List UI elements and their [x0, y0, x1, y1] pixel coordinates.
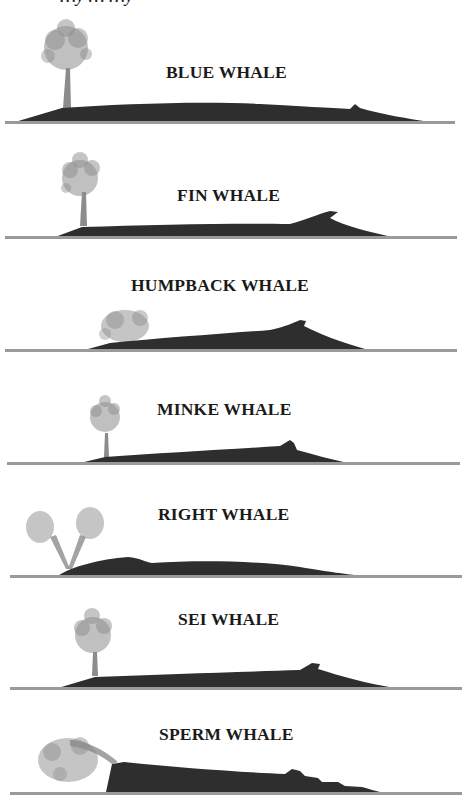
- waterline: [10, 792, 462, 795]
- waterline: [5, 236, 457, 239]
- whale-body: [106, 762, 380, 792]
- whale-label-sei: SEI WHALE: [178, 609, 279, 630]
- waterline: [7, 462, 460, 465]
- sperm-whale-illustration: [0, 700, 471, 804]
- humpback-whale-illustration: [0, 250, 471, 365]
- waterline: [5, 121, 455, 124]
- whale-label-humpback: HUMPBACK WHALE: [131, 275, 309, 296]
- spray-icon: [99, 310, 149, 342]
- waterline: [5, 349, 457, 352]
- spray-icon: [41, 19, 92, 108]
- whale-panel-humpback: HUMPBACK WHALE: [0, 250, 471, 365]
- whale-panel-right: RIGHT WHALE: [0, 475, 471, 590]
- whale-panel-sei: SEI WHALE: [0, 590, 471, 700]
- waterline: [10, 575, 462, 578]
- whale-body: [55, 211, 392, 237]
- whale-panel-minke: MINKE WHALE: [0, 365, 471, 475]
- spray-icon: [90, 395, 120, 457]
- whale-body: [80, 440, 348, 463]
- whale-label-minke: MINKE WHALE: [157, 399, 292, 420]
- whale-panel-sperm: SPERM WHALE: [0, 700, 471, 804]
- whale-label-blue: BLUE WHALE: [166, 62, 287, 83]
- whale-panel-blue: BLUE WHALE: [0, 0, 471, 130]
- spray-icon: [74, 608, 112, 676]
- whale-label-right: RIGHT WHALE: [158, 504, 289, 525]
- whale-body: [15, 103, 430, 122]
- whale-body: [58, 557, 362, 576]
- whale-panel-fin: FIN WHALE: [0, 130, 471, 250]
- spray-icon: [26, 507, 104, 569]
- whale-body: [58, 663, 395, 688]
- whale-label-sperm: SPERM WHALE: [159, 724, 294, 745]
- right-whale-illustration: [0, 475, 471, 590]
- spray-icon: [61, 152, 100, 226]
- whale-label-fin: FIN WHALE: [177, 185, 280, 206]
- minke-whale-illustration: [0, 365, 471, 475]
- spray-icon: [38, 737, 118, 782]
- sei-whale-illustration: [0, 590, 471, 700]
- waterline: [10, 687, 462, 690]
